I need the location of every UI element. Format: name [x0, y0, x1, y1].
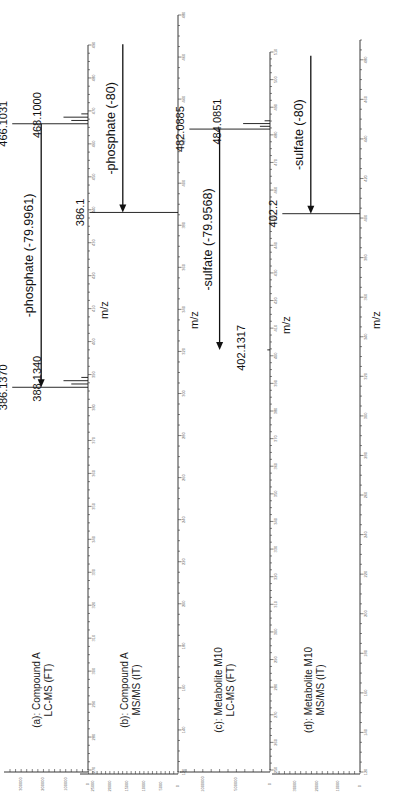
mz-tick-label: 340: [273, 517, 278, 524]
mz-tick-label: 440: [91, 206, 96, 213]
intensity-tick-label: 10000: [141, 780, 146, 792]
panel-title: (c): Metabolite M10: [213, 647, 224, 733]
mz-tick-label: 510: [273, 48, 278, 55]
intensity-tick-label: 5000: [158, 781, 163, 791]
panel-subtitle: MS/MS (IT): [131, 664, 142, 715]
mz-tick-label: 360: [273, 462, 278, 469]
mz-axis-title: m/z: [98, 301, 110, 319]
mz-tick-label: 310: [273, 600, 278, 607]
mz-tick-label: 430: [273, 269, 278, 276]
mz-tick-label: 240: [181, 516, 186, 523]
intensity-tick-label: 30000: [292, 780, 297, 792]
intensity-tick-label: 0: [357, 784, 362, 787]
mz-tick-label: 280: [91, 733, 96, 740]
mz-tick-label: 400: [91, 337, 96, 344]
intensity-tick-label: 25000: [90, 780, 95, 792]
mz-tick-label: 470: [91, 107, 96, 114]
mz-tick-label: 250: [273, 766, 278, 773]
mz-tick-label: 490: [273, 103, 278, 110]
mz-tick-label: 140: [363, 728, 368, 735]
peak-label: 386.1370: [0, 364, 9, 410]
intensity-tick-label: 300000: [18, 777, 23, 791]
panel-subtitle: MS/MS (IT): [315, 664, 326, 715]
mz-tick-label: 180: [363, 649, 368, 656]
peak-label: 402.1317: [235, 325, 247, 371]
mz-tick-label: 290: [91, 700, 96, 707]
panel-title: (a): Compound A: [31, 652, 42, 728]
neutral-loss-label: -sulfate (-80): [292, 99, 306, 170]
mz-tick-label: 360: [91, 469, 96, 476]
mz-tick-label: 160: [363, 689, 368, 696]
mz-tick-label: 380: [363, 254, 368, 261]
mz-axis-title: m/z: [280, 316, 292, 334]
mz-tick-label: 490: [91, 41, 96, 48]
panel-title: (b): Compound A: [119, 652, 130, 728]
peak-label: 484.0851: [211, 99, 223, 145]
mz-tick-label: 380: [91, 403, 96, 410]
mz-tick-label: 140: [181, 726, 186, 733]
mz-tick-label: 360: [181, 263, 186, 270]
mz-tick-label: 380: [181, 221, 186, 228]
intensity-tick-label: 0: [267, 782, 272, 785]
intensity-tick-label: 200000: [40, 777, 45, 791]
mz-tick-label: 240: [363, 530, 368, 537]
intensity-tick-label: 10000: [335, 780, 340, 792]
mz-tick-label: 400: [363, 214, 368, 221]
mz-tick-label: 480: [273, 131, 278, 138]
neutral-loss-label: -sulfate (-79.9568): [201, 188, 215, 290]
intensity-tick-label: 100000: [63, 777, 68, 791]
mz-tick-label: 480: [91, 74, 96, 81]
mz-tick-label: 430: [91, 239, 96, 246]
mz-tick-label: 420: [91, 272, 96, 279]
mz-tick-label: 320: [181, 347, 186, 354]
mz-tick-label: 400: [181, 179, 186, 186]
mz-tick-label: 300: [91, 667, 96, 674]
mz-tick-label: 410: [273, 324, 278, 331]
panel-title: (d): Metabolite M10: [303, 646, 314, 733]
mz-tick-label: 300: [363, 412, 368, 419]
mz-tick-label: 280: [273, 683, 278, 690]
mz-tick-label: 220: [181, 558, 186, 565]
mz-tick-label: 330: [273, 545, 278, 552]
panel-subtitle: LC-MS (FT): [225, 664, 236, 717]
mz-tick-label: 330: [91, 568, 96, 575]
peak-label: 386.1: [74, 199, 86, 227]
intensity-tick-label: 20000: [314, 780, 319, 792]
arrow-head-icon: [216, 342, 223, 350]
mz-tick-label: 160: [181, 684, 186, 691]
mz-tick-label: 320: [91, 601, 96, 608]
mz-tick-label: 380: [273, 407, 278, 414]
spectrum-panel-d: 1201401601802002202402602803003203403603…: [267, 40, 382, 792]
spectrum-panel-c: 2502602702802903003103203303403503603703…: [174, 48, 292, 792]
mz-tick-label: 270: [273, 711, 278, 718]
intensity-tick-label: 0: [175, 784, 180, 787]
mz-tick-label: 340: [181, 305, 186, 312]
mz-tick-label: 290: [273, 655, 278, 662]
mz-tick-label: 400: [273, 352, 278, 359]
panel-subtitle: LC-MS (FT): [43, 664, 54, 717]
mz-tick-label: 370: [273, 435, 278, 442]
spectrum-panel-a: 2702802903003103203303403503603703803904…: [0, 41, 110, 791]
neutral-loss-label: -phosphate (-80): [104, 82, 118, 174]
mz-tick-label: 340: [363, 333, 368, 340]
mz-tick-label: 260: [273, 738, 278, 745]
mz-tick-label: 410: [91, 305, 96, 312]
peak-label: 482.0885: [174, 106, 186, 152]
mz-tick-label: 460: [273, 186, 278, 193]
mz-tick-label: 460: [363, 95, 368, 102]
mz-tick-label: 280: [363, 451, 368, 458]
intensity-tick-label: 1000000: [200, 775, 205, 791]
peak-label: 466.1031: [0, 101, 9, 147]
intensity-tick-label: 500000: [233, 777, 238, 791]
intensity-tick-label: 15000: [124, 780, 129, 792]
mz-tick-label: 260: [363, 491, 368, 498]
mz-tick-label: 440: [273, 241, 278, 248]
mz-tick-label: 220: [363, 570, 368, 577]
mz-tick-label: 320: [363, 372, 368, 379]
mz-tick-label: 200: [181, 600, 186, 607]
mz-tick-label: 320: [273, 573, 278, 580]
arrow-head-icon: [307, 206, 314, 214]
mz-tick-label: 450: [91, 173, 96, 180]
mz-axis-title: m/z: [188, 311, 200, 329]
mz-tick-label: 300: [273, 628, 278, 635]
